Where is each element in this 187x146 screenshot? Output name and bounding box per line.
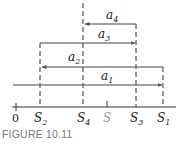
label-a4: a4 — [106, 8, 118, 24]
label-s1: S1 — [157, 111, 170, 127]
figure-caption: FIGURE 10.11 — [2, 128, 72, 140]
label-a2: a2 — [68, 50, 80, 66]
label-s: S — [103, 111, 111, 125]
label-s3: S3 — [130, 111, 143, 127]
label-s4: S4 — [77, 111, 90, 127]
step-diagram: a4 a3 a2 a1 0 S2 S4 S S3 S1 — [0, 0, 187, 146]
label-a3: a3 — [98, 27, 110, 43]
label-s2: S2 — [34, 111, 47, 127]
label-origin: 0 — [12, 112, 19, 125]
label-a1: a1 — [101, 69, 113, 85]
